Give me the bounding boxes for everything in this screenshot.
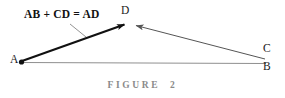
vertex-label-b: B bbox=[263, 61, 271, 73]
baseline-a-to-b bbox=[21, 63, 266, 64]
vertex-label-d: D bbox=[121, 5, 129, 17]
vector-a-to-d bbox=[22, 25, 125, 62]
vertex-dot-a bbox=[19, 59, 24, 64]
vector-c-to-d bbox=[136, 26, 265, 60]
figure-caption: FIGURE 2 bbox=[0, 81, 285, 91]
equation-label: AB + CD = AD bbox=[24, 9, 100, 21]
vertex-label-c: C bbox=[263, 43, 271, 55]
vertex-label-a: A bbox=[10, 54, 18, 66]
equation-leader-line bbox=[70, 24, 86, 37]
figure-container: AB + CD = AD A D C B FIGURE 2 bbox=[0, 0, 285, 98]
